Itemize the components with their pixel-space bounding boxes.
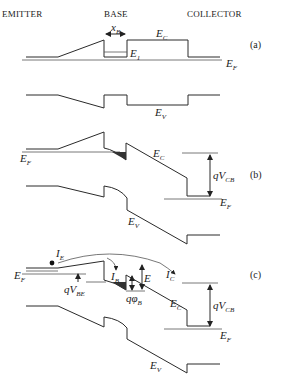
ef-label-a: EF: [226, 58, 237, 72]
panel-c-lines: [22, 254, 222, 373]
ie-label: IE: [56, 248, 64, 262]
ef-right-label-c: EF: [220, 330, 231, 344]
xb-label: xB: [111, 22, 120, 36]
e-field-label: E: [144, 273, 151, 284]
ec-label-c: EC: [170, 298, 181, 312]
ef-right-label-b: EF: [220, 197, 231, 211]
collector-header: COLLECTOR: [187, 10, 242, 19]
panel-b-lines: [22, 132, 222, 244]
qvcb-label-b: qVCB: [213, 170, 234, 184]
emitter-header: EMITTER: [2, 10, 42, 19]
panel-a-lines: [22, 34, 222, 108]
ec-label-b: EC: [153, 148, 164, 162]
ef-left-label-b: EF: [20, 153, 31, 167]
panel-b-label: (b): [250, 170, 262, 180]
qvbe-label: qVBE: [64, 284, 85, 298]
ev-label-a: EV: [155, 107, 166, 121]
hbt-band-diagram: EMITTER BASE COLLECTOR xB EC E1 EF (a) E…: [0, 0, 281, 390]
ic-label: IC: [166, 269, 174, 283]
ef-left-label-c: EF: [14, 270, 25, 284]
base-header: BASE: [104, 10, 128, 19]
ec-label-a: EC: [156, 28, 167, 42]
qvcb-label-c: qVCB: [213, 300, 234, 314]
qphib-label: qφB: [126, 293, 142, 307]
ev-label-c: EV: [150, 360, 161, 374]
panel-c-label: (c): [250, 270, 261, 280]
electron-dot: [50, 261, 55, 266]
band-diagram-lines: [0, 0, 281, 390]
ib-label: IB: [111, 271, 119, 285]
e1-label: E1: [130, 48, 140, 62]
panel-a-label: (a): [250, 40, 261, 50]
ev-label-b: EV: [128, 216, 139, 230]
